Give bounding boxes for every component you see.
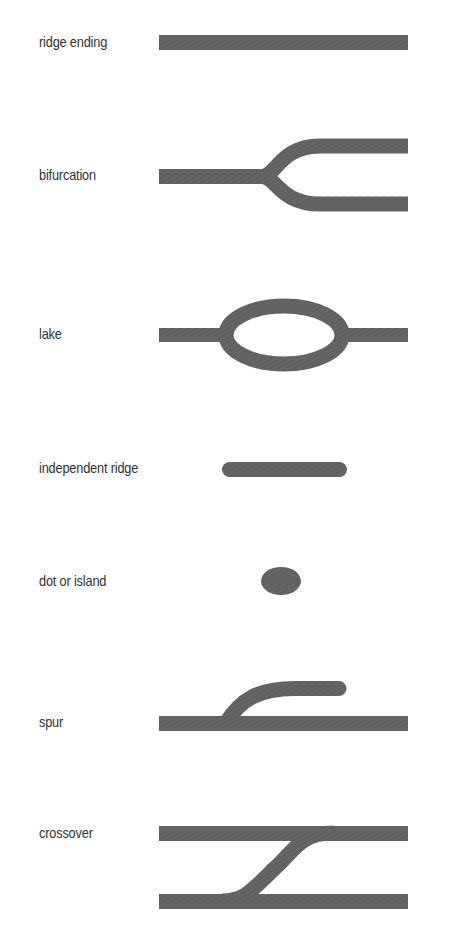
bifurcation-shape bbox=[159, 146, 408, 204]
independent-ridge-shape bbox=[222, 462, 347, 477]
spur-shape bbox=[159, 689, 408, 732]
crossover-shape bbox=[159, 826, 408, 909]
dot-or-island-shape bbox=[261, 567, 301, 595]
lake-shape bbox=[159, 306, 408, 364]
minutiae-figures bbox=[0, 0, 454, 929]
ridge-ending-shape bbox=[159, 35, 408, 50]
